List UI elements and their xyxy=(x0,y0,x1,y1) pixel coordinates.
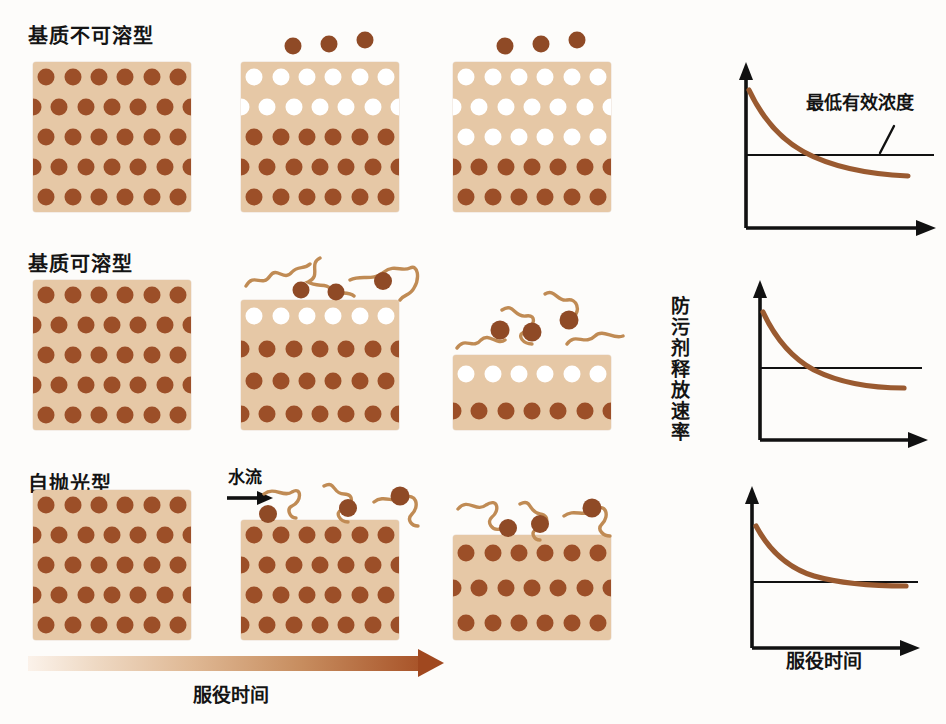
biocide-particle xyxy=(33,377,42,394)
coating-block-r2-s2 xyxy=(241,300,399,430)
released-particle xyxy=(569,32,586,49)
biocide-void xyxy=(510,365,527,382)
biocide-particle xyxy=(241,159,250,176)
biocide-particle xyxy=(377,373,394,390)
biocide-particle xyxy=(471,579,488,596)
biocide-particle xyxy=(497,403,514,420)
biocide-particle xyxy=(285,159,302,176)
biocide-particle xyxy=(77,587,94,604)
biocide-void xyxy=(351,308,368,325)
released-particle xyxy=(321,36,338,53)
coating-block-r3-s1 xyxy=(33,490,191,640)
biocide-particle xyxy=(576,159,593,176)
biocide-particle xyxy=(117,189,134,206)
biocide-particle xyxy=(143,69,160,86)
biocide-particle xyxy=(143,407,160,424)
biocide-particle xyxy=(64,347,81,364)
released-particle xyxy=(583,499,602,518)
biocide-void xyxy=(563,129,580,146)
biocide-particle xyxy=(391,159,400,176)
biocide-particle xyxy=(77,527,94,544)
biocide-particle xyxy=(77,317,94,334)
biocide-particle xyxy=(351,189,368,206)
biocide-particle xyxy=(90,407,107,424)
biocide-particle xyxy=(246,189,263,206)
biocide-void xyxy=(312,99,329,116)
biocide-particle xyxy=(183,527,192,544)
biocide-particle xyxy=(312,557,329,574)
released-particle xyxy=(523,323,542,342)
biocide-particle xyxy=(130,587,147,604)
biocide-particle xyxy=(241,557,250,574)
biocide-particle xyxy=(453,579,462,596)
biocide-void xyxy=(510,69,527,86)
biocide-particle xyxy=(298,129,315,146)
biocide-particle xyxy=(90,497,107,514)
biocide-particle xyxy=(183,99,192,116)
released-particle xyxy=(560,311,579,330)
biocide-particle xyxy=(325,587,342,604)
biocide-particle xyxy=(38,557,55,574)
biocide-particle xyxy=(169,347,186,364)
biocide-particle xyxy=(471,159,488,176)
released-particle xyxy=(339,499,357,517)
biocide-particle xyxy=(497,159,514,176)
biocide-particle xyxy=(338,159,355,176)
biocide-particle xyxy=(143,347,160,364)
biocide-particle xyxy=(117,617,134,634)
biocide-particle xyxy=(143,189,160,206)
biocide-particle xyxy=(169,617,186,634)
chart-x-axis-label: 服役时间 xyxy=(786,646,862,673)
biocide-particle xyxy=(117,557,134,574)
released-particle xyxy=(391,487,410,506)
biocide-particle xyxy=(259,617,276,634)
biocide-particle xyxy=(524,579,541,596)
biocide-particle xyxy=(117,69,134,86)
biocide-particle xyxy=(364,405,381,422)
biocide-particle xyxy=(104,159,121,176)
biocide-particle xyxy=(246,527,263,544)
biocide-particle xyxy=(117,347,134,364)
biocide-particle xyxy=(33,527,42,544)
threshold-label-chart-1: 最低有效浓度 xyxy=(806,88,914,114)
biocide-particle xyxy=(285,617,302,634)
biocide-particle xyxy=(51,587,68,604)
biocide-particle xyxy=(272,129,289,146)
biocide-void xyxy=(453,99,462,116)
biocide-particle xyxy=(64,557,81,574)
biocide-particle xyxy=(312,405,329,422)
biocide-particle xyxy=(38,497,55,514)
released-particle xyxy=(491,321,510,340)
biocide-particle xyxy=(272,373,289,390)
biocide-particle xyxy=(603,403,612,420)
biocide-particle xyxy=(298,373,315,390)
chart-y-axis-label: 防污剂释放速率 xyxy=(666,296,693,443)
biocide-void xyxy=(325,69,342,86)
biocide-void xyxy=(241,99,250,116)
biocide-particle xyxy=(90,617,107,634)
biocide-particle xyxy=(169,129,186,146)
biocide-particle xyxy=(130,99,147,116)
biocide-particle xyxy=(241,405,250,422)
biocide-particle xyxy=(51,317,68,334)
biocide-void xyxy=(298,69,315,86)
biocide-void xyxy=(497,99,514,116)
biocide-particle xyxy=(377,189,394,206)
biocide-particle xyxy=(77,159,94,176)
biocide-particle xyxy=(471,403,488,420)
biocide-particle xyxy=(51,159,68,176)
biocide-particle xyxy=(156,159,173,176)
biocide-particle xyxy=(246,129,263,146)
biocide-void xyxy=(563,69,580,86)
biocide-particle xyxy=(156,527,173,544)
time-arrow-tip-icon xyxy=(418,649,444,677)
biocide-particle xyxy=(391,405,400,422)
biocide-particle xyxy=(38,189,55,206)
biocide-particle xyxy=(524,403,541,420)
biocide-particle xyxy=(90,189,107,206)
biocide-particle xyxy=(64,497,81,514)
biocide-void xyxy=(510,129,527,146)
biocide-particle xyxy=(351,587,368,604)
biocide-particle xyxy=(364,557,381,574)
biocide-particle xyxy=(391,617,400,634)
